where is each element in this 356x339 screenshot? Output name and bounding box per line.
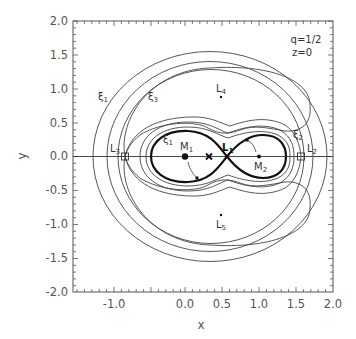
label-l2: L2: [307, 143, 317, 156]
l4-marker: [220, 96, 222, 98]
label-m1: M1: [180, 141, 193, 154]
x-tick-label: 1.5: [287, 297, 305, 311]
y-tick-label: 0.0: [50, 149, 68, 163]
y-tick-label: 1.0: [50, 82, 68, 96]
x-tick-label: 0.0: [176, 297, 194, 311]
label-m2: M2: [254, 161, 267, 174]
y-tick-label: -0.5: [46, 183, 68, 197]
m1-orbit-arrow: [188, 162, 197, 178]
y-tick-label: 0.5: [50, 116, 68, 130]
label-xi1-inner: ξ1: [163, 134, 173, 147]
y-tick-labels: 2.0 1.5 1.0 0.5 0.0 -0.5 -1.0 -1.5 -2.0: [46, 14, 68, 299]
y-axis-title: y: [15, 152, 29, 159]
m2-arrowhead-icon: [246, 139, 249, 142]
y-tick-label: 2.0: [50, 14, 68, 28]
x-tick-label: -1.0: [103, 297, 125, 311]
y-tick-label: -2.0: [46, 285, 68, 299]
param-q: q=1/2: [291, 34, 322, 45]
label-xi2: ξ2: [293, 129, 303, 142]
label-l4: L4: [216, 83, 227, 96]
x-axis-title: x: [197, 318, 204, 332]
roche-potential-chart: -1.0 0.0 0.5 1.0 1.5 2.0 2.0 1.5 1.0 0.5…: [0, 0, 356, 339]
x-tick-label: 1.0: [250, 297, 268, 311]
label-xi3: ξ3: [148, 91, 158, 104]
m1-arrowhead-icon: [196, 177, 199, 180]
m2-orbit-arrow: [247, 140, 256, 152]
m2-marker: [257, 155, 261, 159]
x-tick-label: 0.5: [213, 297, 231, 311]
l5-marker: [220, 214, 222, 216]
x-tick-label: 2.0: [324, 297, 342, 311]
y-tick-label: 1.5: [50, 48, 68, 62]
param-z: z=0: [292, 47, 312, 58]
m1-marker: [182, 153, 188, 159]
y-tick-label: -1.0: [46, 217, 68, 231]
label-xi1-outer: ξ1: [98, 91, 108, 104]
x-tick-labels: -1.0 0.0 0.5 1.0 1.5 2.0: [103, 297, 342, 311]
y-tick-label: -1.5: [46, 251, 68, 265]
label-l5: L5: [216, 219, 226, 232]
